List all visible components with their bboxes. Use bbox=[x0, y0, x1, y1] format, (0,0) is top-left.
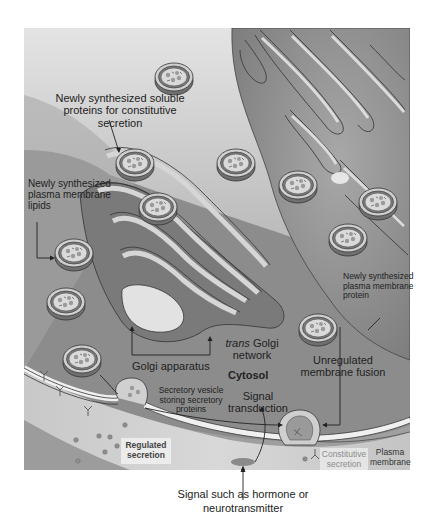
label-line: lipids bbox=[28, 200, 111, 211]
label-golgi: Golgi bbox=[253, 337, 279, 349]
label-trans-golgi-network: trans Golgi network bbox=[222, 337, 282, 362]
label-unregulated: Unregulated membrane fusion bbox=[300, 354, 386, 379]
label-line: neurotransmitter bbox=[160, 502, 326, 516]
label-line: secretion bbox=[40, 117, 200, 129]
diagram-artwork bbox=[0, 0, 430, 521]
label-line: membrane bbox=[370, 458, 410, 468]
label-line: Newly synthesized soluble bbox=[40, 92, 200, 104]
label-pm-protein: Newly synthesized plasma membrane protei… bbox=[343, 272, 413, 301]
label-line: secretion bbox=[122, 451, 170, 461]
label-plasma-membrane: Plasma membrane bbox=[370, 448, 410, 467]
label-line: Newly synthesized bbox=[28, 178, 111, 189]
label-line: Signal such as hormone or bbox=[160, 488, 326, 502]
label-line: transduction bbox=[228, 402, 288, 414]
label-soluble-proteins: Newly synthesized soluble proteins for c… bbox=[40, 92, 200, 129]
label-golgi-apparatus: Golgi apparatus bbox=[132, 360, 210, 372]
label-line: protein bbox=[343, 291, 413, 301]
label-constitutive-secretion: Constitutive secretion bbox=[320, 450, 368, 469]
label-regulated-secretion: Regulated secretion bbox=[122, 441, 170, 460]
label-signal-hormone: Signal such as hormone or neurotransmitt… bbox=[160, 488, 326, 516]
label-line: proteins for constitutive bbox=[40, 104, 200, 116]
label-line: secretion bbox=[320, 460, 368, 470]
label-line: trans Golgi bbox=[222, 337, 282, 349]
label-cytosol: Cytosol bbox=[228, 369, 268, 381]
label-secretory-vesicle: Secretory vesicle storing secretory prot… bbox=[155, 386, 227, 415]
label-line: proteins bbox=[155, 405, 227, 415]
label-pm-lipids: Newly synthesized plasma membrane lipids bbox=[28, 178, 111, 212]
label-trans: trans bbox=[225, 337, 249, 349]
label-line: plasma membrane bbox=[28, 189, 111, 200]
label-line: network bbox=[222, 349, 282, 361]
label-line: Signal bbox=[228, 390, 288, 402]
label-signal-transduction: Signal transduction bbox=[228, 390, 288, 415]
golgi-secretion-diagram: Newly synthesized soluble proteins for c… bbox=[0, 0, 430, 521]
label-line: membrane fusion bbox=[300, 366, 386, 378]
label-line: Unregulated bbox=[300, 354, 386, 366]
